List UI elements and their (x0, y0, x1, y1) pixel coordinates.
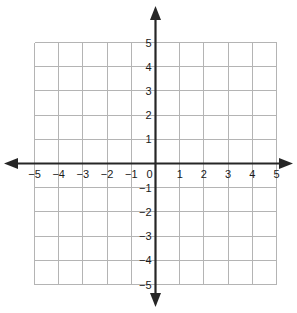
x-tick-label-pos2: 2 (201, 169, 207, 180)
x-tick-label-pos1: 1 (177, 169, 183, 180)
x-tick-label-neg3: −3 (77, 169, 90, 180)
y-tick-label-neg2: −2 (139, 206, 152, 217)
y-tick-label-neg4: −4 (139, 255, 152, 266)
y-tick-label-neg3: −3 (139, 231, 152, 242)
y-tick-label-neg5: −5 (139, 279, 152, 290)
y-tick-label-pos2: 2 (145, 110, 151, 121)
coordinate-plane: −5−4−3−2−11234554321−1−2−3−4−50 (0, 0, 297, 313)
origin-label: 0 (146, 169, 152, 180)
y-tick-label-pos4: 4 (145, 61, 151, 72)
y-tick-label-neg1: −1 (139, 182, 152, 193)
x-tick-label-neg2: −2 (101, 169, 114, 180)
x-tick-label-pos3: 3 (225, 169, 231, 180)
x-tick-label-neg1: −1 (125, 169, 138, 180)
y-tick-label-pos1: 1 (145, 134, 151, 145)
x-tick-label-neg4: −4 (52, 169, 65, 180)
x-tick-label-pos5: 5 (273, 169, 279, 180)
x-tick-label-neg5: −5 (28, 169, 41, 180)
y-tick-label-pos5: 5 (145, 37, 151, 48)
x-tick-label-pos4: 4 (249, 169, 255, 180)
y-tick-label-pos3: 3 (145, 85, 151, 96)
